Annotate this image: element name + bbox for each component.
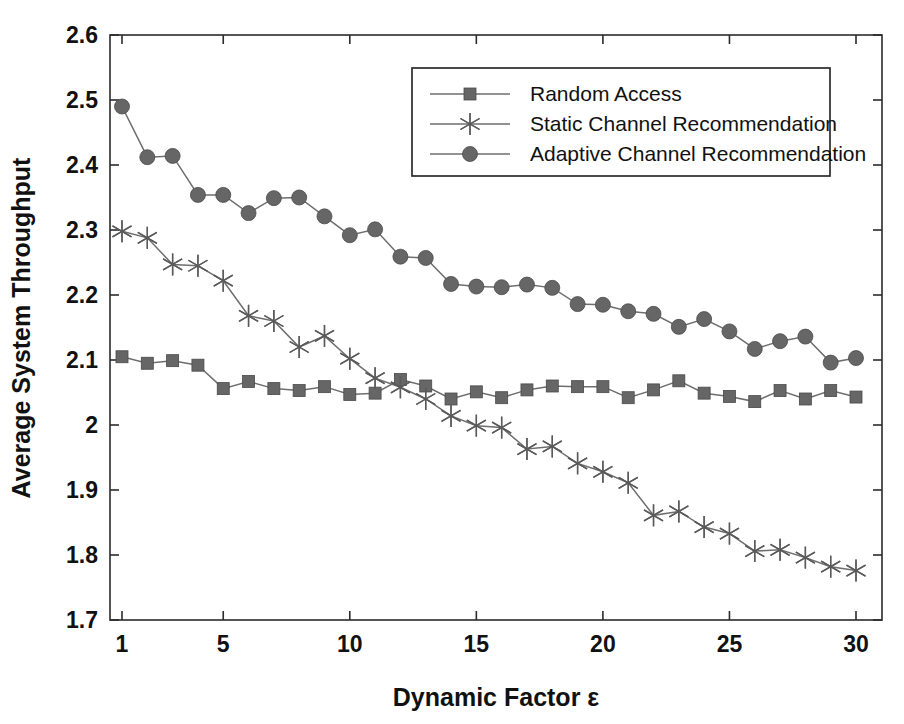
y-tick-label: 1.9 (66, 477, 98, 503)
data-point-marker (722, 324, 737, 339)
data-point-marker (799, 393, 811, 405)
data-point-marker (621, 304, 636, 319)
data-point-marker (292, 190, 307, 205)
y-tick-label: 1.7 (66, 607, 98, 633)
y-tick-label: 2.4 (66, 152, 98, 178)
series-line (122, 357, 856, 402)
data-point-marker (241, 206, 256, 221)
data-point-marker (216, 187, 231, 202)
data-point-marker (798, 329, 813, 344)
chart-canvas: 151015202530 1.71.81.922.12.22.32.42.52.… (0, 0, 904, 724)
data-point-marker (622, 392, 634, 404)
y-axis-title: Average System Throughput (7, 157, 35, 498)
x-tick-label: 15 (464, 631, 490, 657)
data-point-marker (648, 384, 660, 396)
data-point-marker (116, 351, 128, 363)
data-point-marker (646, 306, 661, 321)
y-tick-label: 2.6 (66, 22, 98, 48)
y-tick-label: 2 (85, 412, 98, 438)
x-tick-label: 5 (217, 631, 230, 657)
data-point-marker (393, 249, 408, 264)
data-point-marker (747, 341, 762, 356)
data-point-marker (521, 384, 533, 396)
data-point-marker (849, 351, 864, 366)
y-tick-label: 2.5 (66, 87, 98, 113)
data-point-marker (115, 99, 130, 114)
data-point-marker (317, 209, 332, 224)
data-point-marker (494, 280, 509, 295)
legend-sample-marker (463, 147, 478, 162)
data-point-marker (141, 357, 153, 369)
series-random-access (116, 351, 862, 408)
x-tick-label: 10 (337, 631, 363, 657)
legend-label: Static Channel Recommendation (530, 112, 837, 135)
x-axis-title: Dynamic Factor ε (393, 683, 600, 711)
data-point-marker (418, 250, 433, 265)
data-point-marker (671, 319, 686, 334)
data-point-marker (572, 381, 584, 393)
data-point-marker (318, 381, 330, 393)
data-point-marker (192, 359, 204, 371)
data-point-marker (823, 355, 838, 370)
y-tick-label: 2.3 (66, 217, 98, 243)
data-point-marker (519, 277, 534, 292)
y-tick-label: 1.8 (66, 542, 98, 568)
data-point-marker (445, 393, 457, 405)
data-point-marker (342, 228, 357, 243)
legend-sample-marker (464, 88, 476, 100)
data-point-marker (698, 387, 710, 399)
chart-figure: 151015202530 1.71.81.922.12.22.32.42.52.… (0, 0, 904, 724)
legend-label: Adaptive Channel Recommendation (530, 142, 866, 165)
y-tick-label: 2.2 (66, 282, 98, 308)
chart-legend: Random AccessStatic Channel Recommendati… (412, 68, 866, 176)
legend-label: Random Access (530, 82, 682, 105)
data-point-marker (268, 383, 280, 395)
data-point-marker (595, 297, 610, 312)
data-point-marker (570, 297, 585, 312)
data-point-marker (190, 187, 205, 202)
data-point-marker (470, 386, 482, 398)
series-line (122, 231, 856, 570)
data-point-marker (723, 390, 735, 402)
data-point-marker (697, 312, 712, 327)
data-point-marker (167, 355, 179, 367)
data-point-marker (773, 334, 788, 349)
x-tick-label: 25 (717, 631, 743, 657)
data-point-marker (266, 191, 281, 206)
data-point-marker (850, 391, 862, 403)
x-tick-label: 30 (843, 631, 869, 657)
data-point-marker (165, 148, 180, 163)
x-tick-label: 20 (590, 631, 616, 657)
data-point-marker (673, 375, 685, 387)
data-point-marker (140, 150, 155, 165)
data-point-marker (749, 396, 761, 408)
data-point-marker (293, 385, 305, 397)
data-point-marker (774, 385, 786, 397)
data-point-marker (243, 375, 255, 387)
data-point-marker (217, 383, 229, 395)
data-point-marker (825, 385, 837, 397)
data-point-marker (469, 279, 484, 294)
data-point-marker (597, 381, 609, 393)
data-point-marker (545, 280, 560, 295)
x-tick-label: 1 (116, 631, 129, 657)
data-point-marker (444, 276, 459, 291)
data-point-marker (496, 392, 508, 404)
y-tick-label: 2.1 (66, 347, 98, 373)
data-point-marker (546, 380, 558, 392)
data-point-marker (344, 388, 356, 400)
data-point-marker (368, 222, 383, 237)
